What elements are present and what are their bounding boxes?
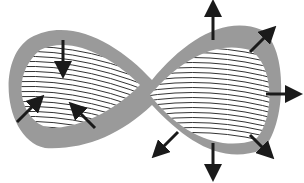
left-lobe xyxy=(0,0,152,183)
figure-eight-diagram xyxy=(0,0,304,183)
arrow-down-left-icon xyxy=(158,132,178,152)
